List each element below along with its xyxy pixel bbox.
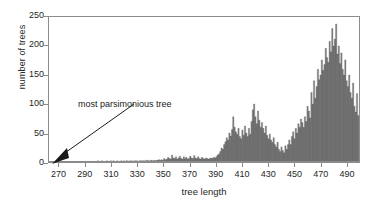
- x-tick-mark: [163, 163, 164, 167]
- x-tick-mark: [190, 163, 191, 167]
- x-tick-mark: [321, 163, 322, 167]
- y-axis-tick-labels: 050100150200250: [16, 0, 44, 208]
- x-tick-label: 490: [332, 169, 362, 179]
- x-tick-mark: [347, 163, 348, 167]
- bar-series: [56, 24, 359, 162]
- y-tick-mark: [43, 163, 48, 164]
- annotation-label: most parsimonious tree: [78, 99, 172, 109]
- y-tick-label: 200: [18, 40, 44, 49]
- x-axis-label: tree length: [48, 186, 360, 197]
- x-tick-mark: [216, 163, 217, 167]
- plot-area: [48, 16, 360, 163]
- y-tick-label: 0: [18, 158, 44, 167]
- x-tick-mark: [242, 163, 243, 167]
- x-tick-mark: [294, 163, 295, 167]
- histogram-bars: [49, 17, 359, 162]
- x-tick-mark: [268, 163, 269, 167]
- x-tick-mark: [137, 163, 138, 167]
- y-tick-mark: [43, 45, 48, 46]
- y-tick-mark: [43, 75, 48, 76]
- y-tick-mark: [43, 134, 48, 135]
- x-tick-mark: [111, 163, 112, 167]
- histogram-figure: number of trees 050100150200250 27029031…: [0, 0, 376, 208]
- y-tick-label: 250: [18, 11, 44, 20]
- y-tick-label: 150: [18, 70, 44, 79]
- y-tick-label: 100: [18, 99, 44, 108]
- x-tick-mark: [85, 163, 86, 167]
- y-tick-mark: [43, 16, 48, 17]
- y-tick-label: 50: [18, 129, 44, 138]
- y-tick-mark: [43, 104, 48, 105]
- x-tick-mark: [58, 163, 59, 167]
